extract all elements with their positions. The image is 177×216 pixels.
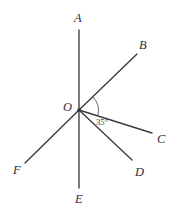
point-label-F: F [13, 164, 21, 177]
vertex-point-O [77, 108, 80, 111]
point-label-O: O [63, 101, 72, 114]
angle-arc-BOC [93, 97, 99, 115]
point-label-C: C [157, 133, 165, 146]
ray-OC [79, 110, 152, 133]
point-label-D: D [135, 166, 144, 179]
ray-OF [25, 110, 79, 163]
geometry-figure: O A B C D E F 35° [0, 0, 177, 216]
point-label-B: B [139, 39, 147, 52]
ray-group [25, 30, 152, 188]
angle-measure-label: 35° [96, 118, 108, 127]
ray-OB [79, 54, 137, 110]
point-label-A: A [74, 12, 82, 25]
point-label-E: E [75, 193, 83, 206]
geometry-canvas [0, 0, 177, 216]
